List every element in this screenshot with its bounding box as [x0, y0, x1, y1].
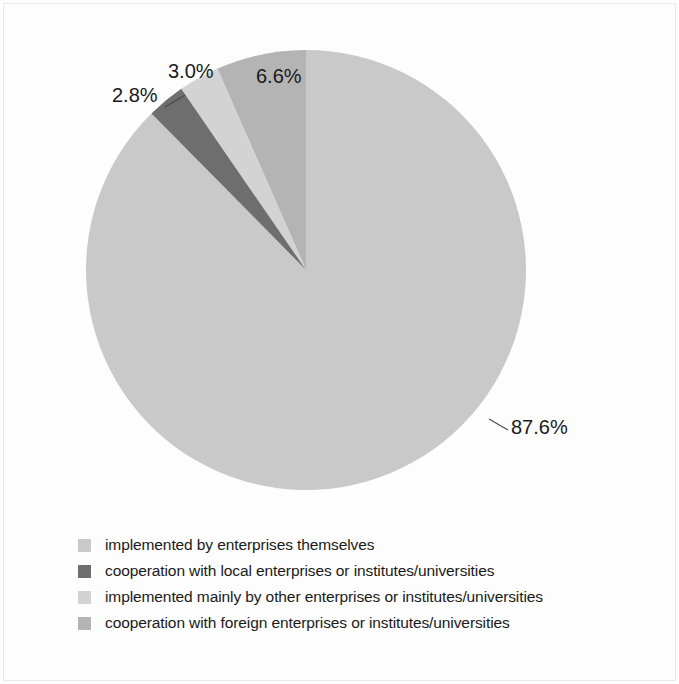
slice-value-label-other: 3.0% — [168, 60, 214, 82]
legend-label: implemented by enterprises themselves — [105, 536, 374, 554]
leader-line-main — [489, 419, 508, 430]
slice-value-label-foreign: 6.6% — [256, 65, 302, 87]
legend-item-cooperation-with-foreign-enterprises[interactable]: cooperation with foreign enterprises or … — [78, 610, 638, 636]
legend-label: cooperation with foreign enterprises or … — [105, 614, 510, 632]
chart-legend: implemented by enterprises themselves co… — [78, 532, 638, 636]
legend-label: implemented mainly by other enterprises … — [105, 588, 543, 606]
legend-swatch-icon — [78, 565, 91, 578]
legend-swatch-icon — [78, 539, 91, 552]
legend-item-implemented-by-enterprises-themselves[interactable]: implemented by enterprises themselves — [78, 532, 638, 558]
legend-swatch-icon — [78, 591, 91, 604]
slice-value-label-local: 2.8% — [112, 84, 158, 106]
pie-chart-figure: 2.8%3.0%6.6%87.6% implemented by enterpr… — [0, 0, 679, 684]
legend-item-implemented-mainly-by-other-enterprises[interactable]: implemented mainly by other enterprises … — [78, 584, 638, 610]
legend-label: cooperation with local enterprises or in… — [105, 562, 494, 580]
slice-main-shape[interactable] — [86, 50, 526, 490]
pie-svg: 2.8%3.0%6.6%87.6% — [0, 0, 679, 530]
pie-plot-area: 2.8%3.0%6.6%87.6% — [0, 0, 679, 530]
legend-swatch-icon — [78, 617, 91, 630]
legend-item-cooperation-with-local-enterprises[interactable]: cooperation with local enterprises or in… — [78, 558, 638, 584]
pie-slices-group — [86, 50, 526, 490]
slice-value-label-main: 87.6% — [511, 416, 568, 438]
